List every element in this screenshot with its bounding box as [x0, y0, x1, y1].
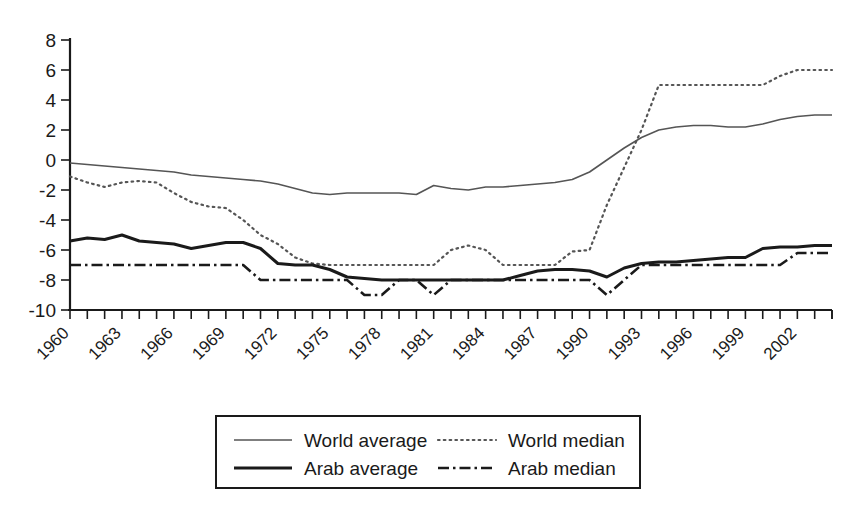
legend-label: Arab average: [304, 458, 418, 479]
x-tick-label: 1990: [552, 323, 592, 363]
legend-label: Arab median: [508, 458, 616, 479]
x-tick-label: 1993: [604, 323, 644, 363]
legend-label: World median: [508, 430, 625, 451]
y-tick-label: -2: [39, 180, 56, 201]
x-tick-label: 1984: [448, 323, 488, 363]
legend-entry: World median: [438, 430, 625, 451]
x-tick-label: 1978: [344, 323, 384, 363]
chart-legend: World averageWorld medianArab averageAra…: [216, 416, 640, 488]
legend-label: World average: [304, 430, 427, 451]
y-tick-label: 4: [45, 90, 56, 111]
x-tick-label: 1966: [137, 323, 177, 363]
y-tick-label: 2: [45, 120, 56, 141]
legend-entry: Arab average: [234, 458, 418, 479]
x-tick-label: 1969: [189, 323, 229, 363]
x-axis: [68, 310, 832, 319]
x-tick-label: 1975: [292, 323, 332, 363]
x-tick-label: 1972: [240, 323, 280, 363]
y-tick-label: -4: [39, 210, 56, 231]
series-line: [70, 70, 832, 265]
x-tick-label: 2002: [760, 323, 800, 363]
x-tick-label: 1996: [656, 323, 696, 363]
legend-entry: World average: [234, 430, 427, 451]
y-axis: 86420-2-4-6-8-10: [29, 30, 70, 321]
chart-container: 86420-2-4-6-8-10 19601963196619691972197…: [0, 0, 852, 511]
y-tick-label: -10: [29, 300, 56, 321]
x-tick-label: 1960: [33, 323, 73, 363]
x-tick-labels: 1960196319661969197219751978198119841987…: [33, 323, 801, 363]
y-tick-label: -6: [39, 240, 56, 261]
line-chart: 86420-2-4-6-8-10 19601963196619691972197…: [0, 0, 852, 511]
x-tick-label: 1963: [85, 323, 125, 363]
series-lines: [70, 70, 832, 295]
legend-entry: Arab median: [438, 458, 616, 479]
y-tick-label: 6: [45, 60, 56, 81]
series-line: [70, 235, 832, 280]
x-tick-label: 1981: [396, 323, 436, 363]
series-line: [70, 115, 832, 195]
y-tick-label: 8: [45, 30, 56, 51]
y-tick-label: -8: [39, 270, 56, 291]
y-tick-label: 0: [45, 150, 56, 171]
x-tick-label: 1999: [708, 323, 748, 363]
x-tick-label: 1987: [500, 323, 540, 363]
